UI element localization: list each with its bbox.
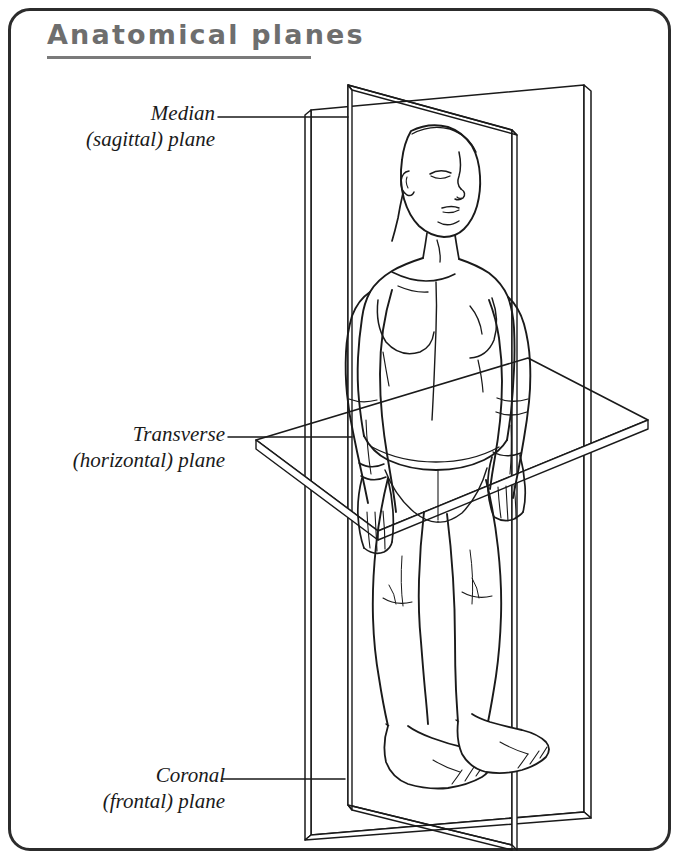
- callout-transverse-line2: (horizontal) plane: [0, 447, 225, 473]
- diagram-page: Anatomical planes: [0, 0, 682, 861]
- callout-coronal-frontal-plane: Coronal (frontal) plane: [20, 762, 225, 814]
- callout-coronal-line1: Coronal: [156, 763, 225, 787]
- callout-median-line2: (sagittal) plane: [20, 126, 215, 152]
- callout-median-sagittal-plane: Median (sagittal) plane: [20, 100, 215, 152]
- callout-median-line1: Median: [151, 101, 215, 125]
- callout-transverse-horizontal-plane: Transverse (horizontal) plane: [0, 421, 225, 473]
- callout-transverse-line1: Transverse: [133, 422, 225, 446]
- callout-coronal-line2: (frontal) plane: [20, 788, 225, 814]
